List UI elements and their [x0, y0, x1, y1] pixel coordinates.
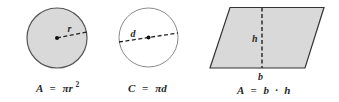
- radius-label: r: [68, 23, 72, 34]
- formula-lhs: A: [35, 82, 43, 94]
- formula-exponent: 2: [76, 80, 80, 89]
- formula-multiply-dot: ·: [275, 84, 279, 96]
- circle-circumference-figure: d C = πd: [119, 8, 178, 94]
- circle-area-formula: A = πr 2: [35, 80, 80, 94]
- formula-base: b: [264, 84, 270, 96]
- formula-equals: =: [142, 82, 148, 94]
- formula-rhs: πd: [155, 82, 167, 94]
- formula-equals: =: [49, 82, 55, 94]
- circle-area-figure: r A = πr 2: [27, 8, 87, 94]
- formula-lhs: C: [128, 82, 136, 94]
- formula-height: h: [284, 84, 290, 96]
- formula-rhs: πr: [63, 82, 74, 94]
- formula-lhs: A: [236, 84, 244, 96]
- height-label: h: [252, 33, 258, 44]
- circumference-formula: C = πd: [128, 82, 167, 94]
- shaded-parallelogram: [210, 8, 324, 69]
- base-label: b: [258, 71, 263, 82]
- center-point: [55, 36, 59, 40]
- formula-equals: =: [250, 84, 256, 96]
- parallelogram-area-figure: h b A = b · h: [210, 8, 324, 97]
- center-point: [147, 36, 151, 40]
- geometry-formulas-diagram: r A = πr 2 d C = πd h b A = b · h: [0, 0, 339, 102]
- parallelogram-area-formula: A = b · h: [236, 84, 290, 96]
